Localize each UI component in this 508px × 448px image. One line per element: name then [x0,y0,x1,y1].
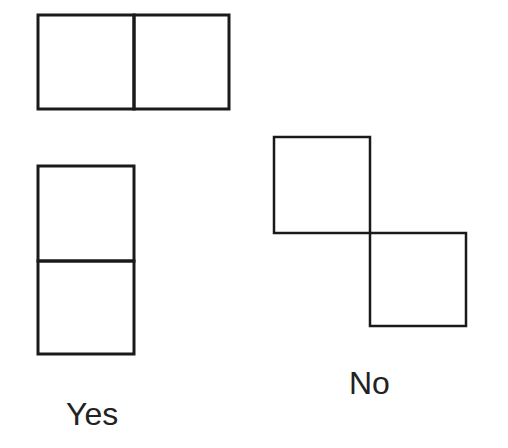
yes-label: Yes [66,398,118,430]
domino-diagram [0,0,508,448]
square [38,261,134,354]
square [274,137,370,233]
square [38,166,134,261]
square [134,15,229,109]
no-label: No [349,367,390,399]
corner-touching-squares [274,137,466,326]
vertical-domino [38,166,134,354]
square [370,233,466,326]
square [38,15,134,109]
horizontal-domino [38,15,229,109]
